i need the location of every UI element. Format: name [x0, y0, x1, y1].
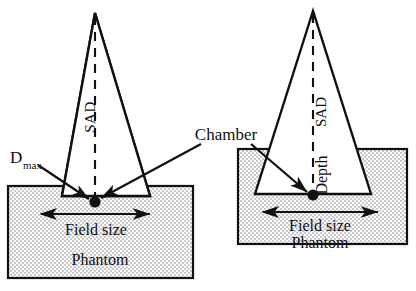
- dmax-label-group: D max: [10, 148, 42, 171]
- chamber-point-right: [307, 189, 318, 200]
- beam-interior-left: [62, 13, 150, 196]
- chamber-point-left: [89, 196, 100, 207]
- phantom-label-right: Phantom: [292, 234, 349, 251]
- depth-label-right: Depth: [313, 155, 331, 194]
- phantom-label-left: Phantom: [72, 251, 129, 268]
- sad-label-right: SAD: [313, 97, 329, 127]
- field-size-label-right: Field size: [289, 217, 351, 234]
- radiation-beam-geometry-diagram: SAD Field size Phantom SAD Depth Field s…: [0, 0, 416, 291]
- dmax-subscript-label: max: [23, 159, 42, 171]
- figure-canvas: SAD Field size Phantom SAD Depth Field s…: [0, 0, 416, 291]
- chamber-label: Chamber: [195, 125, 258, 144]
- right-panel-group: SAD Depth Field size Phantom: [238, 11, 407, 251]
- dmax-base-label: D: [10, 148, 22, 167]
- field-size-label-left: Field size: [65, 221, 127, 238]
- sad-label-left: SAD: [82, 101, 98, 133]
- left-panel-group: SAD Field size Phantom: [8, 13, 193, 278]
